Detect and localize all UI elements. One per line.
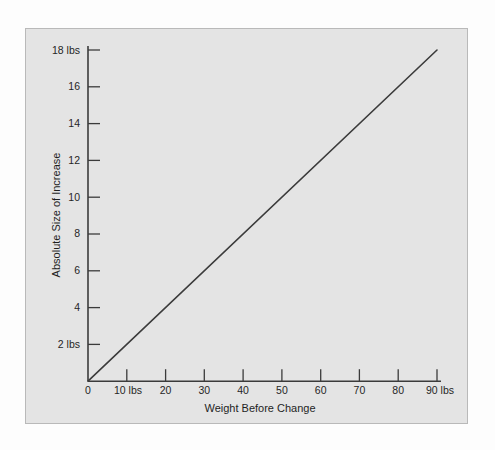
x-tick-label-30: 30 [198, 384, 210, 396]
y-axis-title: Absolute Size of Increase [50, 153, 62, 278]
y-tick-label-16: 16 [68, 80, 80, 92]
y-tick-label-6: 6 [74, 264, 80, 276]
x-tick-label-90: 90 lbs [426, 384, 454, 396]
y-tick-label-18: 18 lbs [52, 44, 80, 56]
x-tick-label-70: 70 [354, 384, 366, 396]
x-tick-label-0: 0 [85, 384, 91, 396]
y-tick-label-8: 8 [74, 227, 80, 239]
y-tick-label-12: 12 [68, 154, 80, 166]
x-tick-marks [127, 369, 437, 381]
x-axis-title: Weight Before Change [204, 402, 315, 414]
y-tick-label-2: 2 lbs [58, 338, 80, 350]
x-tick-label-50: 50 [276, 384, 288, 396]
y-tick-marks [88, 50, 100, 344]
x-tick-label-20: 20 [160, 384, 172, 396]
x-tick-labels: 0 10 lbs 20 30 40 50 60 70 80 90 lbs [85, 384, 454, 396]
data-series-line [88, 50, 437, 381]
x-tick-label-40: 40 [237, 384, 249, 396]
y-tick-label-14: 14 [68, 117, 80, 129]
y-tick-label-10: 10 [68, 191, 80, 203]
x-tick-label-80: 80 [392, 384, 404, 396]
x-tick-label-60: 60 [315, 384, 327, 396]
x-tick-label-10: 10 lbs [114, 384, 142, 396]
chart-canvas: 18 lbs 16 14 12 10 8 6 4 2 lbs 0 10 lbs … [0, 0, 495, 450]
y-tick-label-4: 4 [74, 301, 80, 313]
